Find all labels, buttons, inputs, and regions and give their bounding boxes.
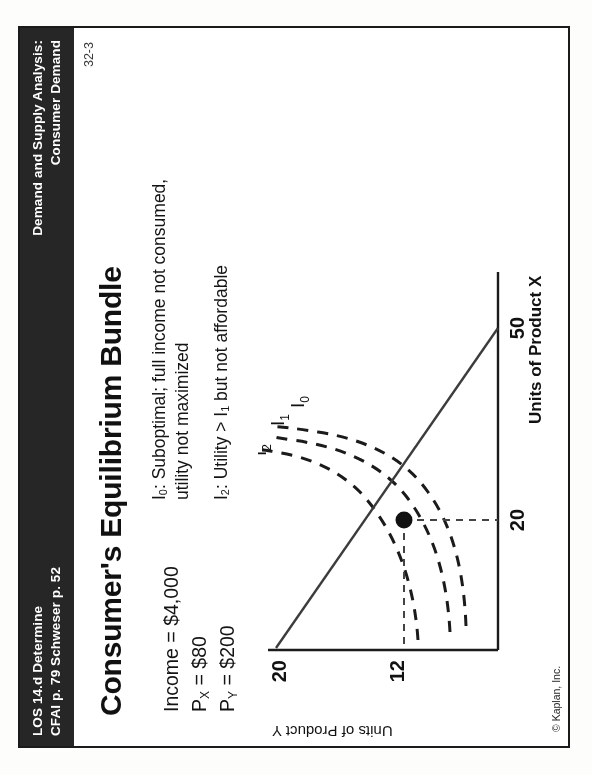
given-price-x: PX = $80 [186,566,214,712]
note-i0-symbol: I [149,495,169,500]
x-tick-label-20: 20 [506,509,528,531]
header-los-line: LOS 14.d Determine [29,567,47,736]
note-i0: I0: Suboptimal; full income not consumed… [148,178,194,500]
indifference-curve-i0 [270,426,466,626]
note-i2-symbol: I [211,495,231,500]
x-axis-title: Units of Product X [526,276,546,424]
copyright-notice: © Kaplan, Inc. [550,666,562,732]
curve-label-i0: I0 [287,396,312,408]
header-right-block: Demand and Supply Analysis: Consumer Dem… [29,40,65,236]
note-i2-inner-subscript: 1 [220,406,232,412]
note-i2-text-a: : Utility > I [211,412,231,489]
curve-label-i1: I1 [267,414,292,426]
price-y-symbol: P [216,699,238,712]
indifference-curve-i1 [268,436,450,632]
note-i0-text: : Suboptimal; full income not consumed, … [149,179,192,500]
price-x-symbol: P [188,699,210,712]
price-y-subscript: Y [225,691,239,699]
page-number: 32-3 [82,42,96,67]
note-i2-text-b: but not affordable [211,265,231,406]
note-i2-subscript: 2 [220,489,232,495]
slide-rotation-stage: LOS 14.d Determine CFAI p. 79 Schweser p… [18,26,570,748]
indifference-curve-chart: 20 12 20 50 I2 I1 [258,164,550,724]
note-i2: I2: Utility > I1 but not affordable [210,178,233,500]
chart-svg: 20 12 20 50 I2 I1 [258,164,550,724]
slide-header-bar: LOS 14.d Determine CFAI p. 79 Schweser p… [20,28,74,746]
equilibrium-point-marker [396,512,413,529]
y-axis-title: Units of Product Y [272,723,393,740]
price-y-value: = $200 [216,625,238,691]
y-tick-label-12: 12 [386,660,408,682]
given-price-y: PY = $200 [214,566,242,712]
y-tick-label-20: 20 [268,660,290,682]
slide-title: Consumer's Equilibrium Bundle [94,266,128,716]
given-income: Income = $4,000 [158,566,186,712]
x-tick-label-50: 50 [506,317,528,339]
header-topic-line: Demand and Supply Analysis: [29,40,47,236]
note-i0-subscript: 0 [157,489,169,495]
notes-block: I0: Suboptimal; full income not consumed… [148,178,249,500]
slide: LOS 14.d Determine CFAI p. 79 Schweser p… [18,26,570,748]
price-x-subscript: X [197,691,211,699]
price-x-value: = $80 [188,636,210,691]
givens-block: Income = $4,000 PX = $80 PY = $200 [158,566,241,712]
header-left-block: LOS 14.d Determine CFAI p. 79 Schweser p… [29,567,65,736]
curve-label-i2: I2 [258,444,274,456]
header-subtopic-line: Consumer Demand [47,40,65,236]
header-reference-line: CFAI p. 79 Schweser p. 52 [47,567,65,736]
